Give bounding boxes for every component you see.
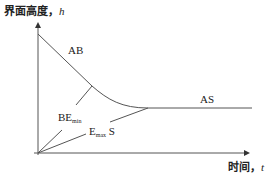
label-be-min: BEmin [58, 112, 81, 124]
x-axis-variable: t [261, 161, 264, 173]
label-ab: AB [68, 45, 83, 56]
x-axis-title-text: 时间， [228, 161, 261, 173]
label-emax-s-main: E [89, 125, 96, 137]
label-emax-s: Emax S [89, 126, 115, 138]
x-axis-title: 时间，t [228, 162, 264, 173]
curve-emax-s-upper [110, 108, 148, 122]
curve-emax-s-lower [38, 134, 86, 153]
label-as: AS [200, 94, 214, 105]
label-emax-s-sub: max [96, 132, 106, 138]
curve-ab [38, 34, 148, 108]
diagram-canvas [0, 0, 273, 182]
curve-be-min-upper [76, 86, 92, 105]
label-be-min-sub: min [72, 118, 81, 124]
label-emax-s-tail: S [106, 125, 115, 137]
y-axis-title-text: 界面高度， [4, 5, 59, 17]
y-axis-title: 界面高度，h [4, 6, 65, 17]
y-axis-variable: h [59, 5, 65, 17]
curve-be-min-lower [38, 130, 62, 153]
label-be-min-main: BE [58, 111, 72, 123]
